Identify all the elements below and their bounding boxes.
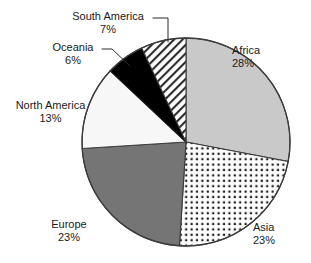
pie-label-south-america: South America 7% bbox=[58, 10, 158, 36]
pie-label-north-america-name: North America bbox=[8, 99, 93, 112]
pie-label-north-america: North America 13% bbox=[8, 99, 93, 125]
pie-label-south-america-value: 7% bbox=[58, 23, 158, 36]
pie-label-africa: Africa 28% bbox=[232, 44, 260, 70]
pie-label-oceania-value: 6% bbox=[42, 54, 104, 67]
pie-label-asia: Asia 23% bbox=[253, 221, 275, 247]
pie-label-oceania: Oceania 6% bbox=[42, 41, 104, 67]
pie-label-europe-value: 23% bbox=[38, 231, 100, 244]
pie-label-africa-value: 28% bbox=[232, 57, 260, 70]
pie-label-europe-name: Europe bbox=[38, 218, 100, 231]
pie-chart: Africa 28% Asia 23% Europe 23% North Ame… bbox=[0, 0, 311, 263]
pie-label-south-america-name: South America bbox=[58, 10, 158, 23]
pie-label-africa-name: Africa bbox=[232, 44, 260, 57]
pie-label-north-america-value: 13% bbox=[8, 112, 93, 125]
pie-label-asia-name: Asia bbox=[253, 221, 275, 234]
pie-label-asia-value: 23% bbox=[253, 234, 275, 247]
pie-label-oceania-name: Oceania bbox=[42, 41, 104, 54]
pie-label-europe: Europe 23% bbox=[38, 218, 100, 244]
